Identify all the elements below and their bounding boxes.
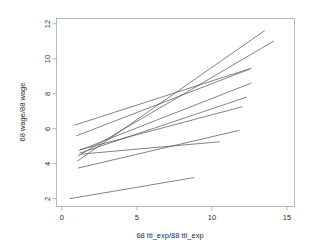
y-tick-label: 12	[42, 20, 51, 28]
x-tick-label: 15	[283, 213, 291, 222]
y-tick-label: 10	[42, 55, 51, 63]
y-tick-label: 6	[42, 127, 51, 131]
x-tick-label: 0	[60, 213, 64, 222]
y-tick-label: 2	[42, 197, 51, 201]
y-tick-label: 4	[42, 162, 51, 166]
y-tick-label: 8	[42, 92, 51, 96]
chart-figure: 05101524681012 68 ttl_exp/88 ttl_exp 68 …	[0, 0, 320, 252]
y-axis-title: 68 wage/88 wage	[18, 83, 27, 142]
x-tick-label: 5	[135, 213, 139, 222]
x-tick-label: 10	[208, 213, 216, 222]
x-axis-title: 68 ttl_exp/88 ttl_exp	[136, 231, 203, 240]
